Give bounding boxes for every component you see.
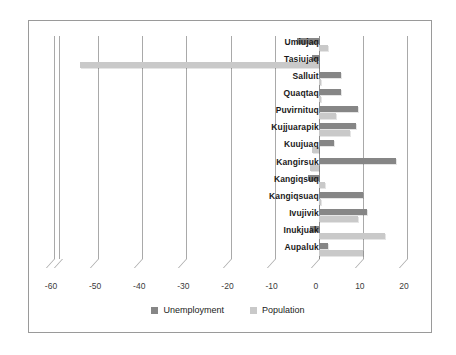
- gridline-wall--60: [54, 36, 60, 259]
- bar-unemployment-kangirsuk: [319, 158, 396, 164]
- legend-item-population[interactable]: Population: [250, 305, 305, 315]
- category-label-ivujivik: Ivujivik: [199, 208, 322, 218]
- category-label-kuujuaq: Kuujuaq: [199, 139, 322, 149]
- bar-unemployment-quaqtaq: [319, 89, 341, 95]
- category-label-salluit: Salluit: [199, 71, 322, 81]
- gridline-10: [363, 36, 364, 259]
- bar-unemployment-ivujivik: [319, 209, 368, 215]
- x-tick-label--50: -50: [75, 281, 115, 291]
- x-tick-label--20: -20: [208, 281, 248, 291]
- category-label-aupaluk: Aupaluk: [199, 242, 322, 252]
- legend-label-population: Population: [262, 305, 305, 315]
- x-tick-label-10: 10: [340, 281, 380, 291]
- bar-unemployment-puvirnituq: [319, 106, 359, 112]
- bar-population-kujjuarapik: [319, 130, 350, 136]
- x-tick-label-0: 0: [296, 281, 336, 291]
- category-label-puvirnituq: Puvirnituq: [199, 105, 322, 115]
- chart-root: UmiujaqTasiujaqSalluitQuaqtaqPuvirnituqK…: [0, 0, 456, 355]
- x-tick-label--40: -40: [119, 281, 159, 291]
- bar-population-ivujivik: [319, 216, 359, 222]
- bar-unemployment-salluit: [319, 72, 341, 78]
- legend-item-unemployment[interactable]: Unemployment: [151, 305, 224, 315]
- legend-label-unemployment: Unemployment: [163, 305, 224, 315]
- gridline--50: [98, 36, 99, 259]
- category-label-kangiqsuq: Kangiqsuq: [199, 174, 322, 184]
- gridline--30: [186, 36, 187, 259]
- bar-population-inukjuak: [319, 233, 385, 239]
- x-tick-label-20: 20: [384, 281, 424, 291]
- category-label-kujjuarapik: Kujjuarapik: [199, 122, 322, 132]
- plot-area: UmiujaqTasiujaqSalluitQuaqtaqPuvirnituqK…: [54, 36, 407, 259]
- gridline--40: [142, 36, 143, 259]
- legend-swatch-icon-population: [250, 307, 257, 314]
- x-tick-label--30: -30: [163, 281, 203, 291]
- category-label-umiujaq: Umiujaq: [199, 37, 322, 47]
- category-label-tasiujaq: Tasiujaq: [199, 54, 322, 64]
- bar-population-aupaluk: [319, 250, 363, 256]
- category-label-kangirsuk: Kangirsuk: [199, 157, 322, 167]
- x-tick-label--60: -60: [31, 281, 71, 291]
- bar-unemployment-kujjuarapik: [319, 123, 357, 129]
- legend-swatch-icon-unemployment: [151, 307, 158, 314]
- chart-legend: Unemployment Population: [0, 305, 456, 315]
- category-label-inukjuak: Inukjuak: [199, 225, 322, 235]
- x-tick-label--10: -10: [252, 281, 292, 291]
- category-label-quaqtaq: Quaqtaq: [199, 88, 322, 98]
- bar-unemployment-kangiqsuaq: [319, 192, 363, 198]
- gridline-20: [407, 36, 408, 259]
- category-label-kangiqsuaq: Kangiqsuaq: [199, 191, 322, 201]
